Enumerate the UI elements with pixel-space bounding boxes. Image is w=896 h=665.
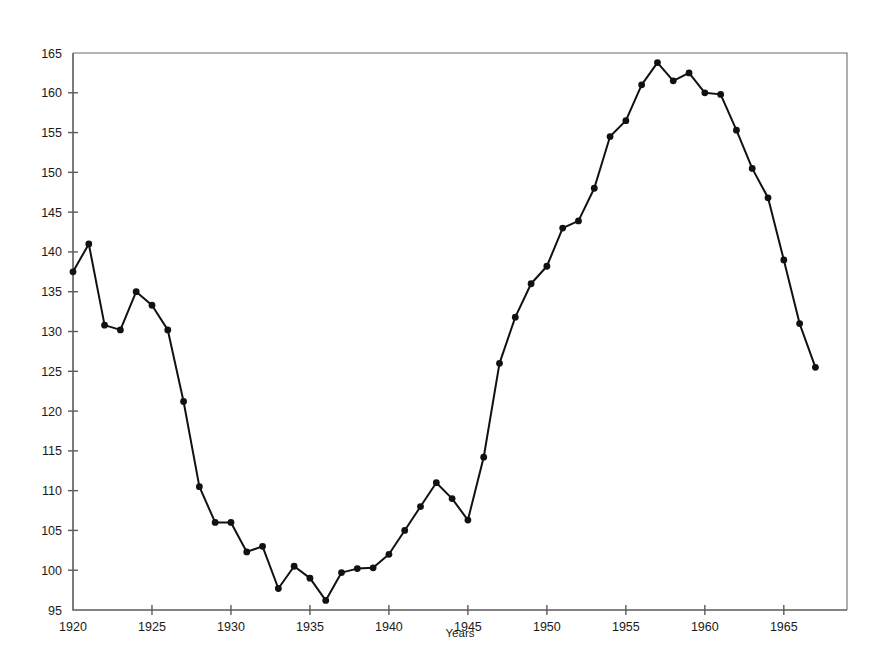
data-point-1966 xyxy=(796,320,803,327)
data-point-1939 xyxy=(370,564,377,571)
data-point-1948 xyxy=(512,314,519,321)
data-point-1951 xyxy=(559,225,566,232)
data-point-1933 xyxy=(275,585,282,592)
y-tick-label-135: 135 xyxy=(41,285,62,299)
data-point-1932 xyxy=(259,543,266,550)
y-tick-label-95: 95 xyxy=(48,604,62,618)
data-point-1920 xyxy=(70,268,77,275)
data-point-1944 xyxy=(449,495,456,502)
data-point-1962 xyxy=(733,127,740,134)
y-axis-tick-labels: 9510010511011512012513013514014515015516… xyxy=(41,47,62,618)
data-point-1935 xyxy=(307,575,314,582)
y-tick-label-120: 120 xyxy=(41,405,62,419)
data-point-1954 xyxy=(607,133,614,140)
data-point-1956 xyxy=(638,81,645,88)
y-tick-label-115: 115 xyxy=(42,444,62,458)
data-point-1967 xyxy=(812,364,819,371)
data-point-1959 xyxy=(686,69,693,76)
data-point-1947 xyxy=(496,360,503,367)
data-point-1923 xyxy=(117,327,124,334)
y-tick-label-155: 155 xyxy=(41,126,62,140)
x-tick-label-1950: 1950 xyxy=(533,620,561,634)
data-point-1952 xyxy=(575,218,582,225)
y-tick-label-160: 160 xyxy=(41,86,62,100)
data-point-1963 xyxy=(749,165,756,172)
data-point-1926 xyxy=(164,327,171,334)
data-point-1925 xyxy=(149,302,156,309)
x-tick-label-1940: 1940 xyxy=(375,620,403,634)
x-tick-label-1925: 1925 xyxy=(138,620,166,634)
data-point-1930 xyxy=(228,519,235,526)
data-point-1942 xyxy=(417,503,424,510)
y-tick-label-125: 125 xyxy=(41,365,62,379)
data-point-1934 xyxy=(291,563,298,570)
x-axis-title: Years xyxy=(446,627,475,639)
data-point-1961 xyxy=(717,91,724,98)
data-point-1940 xyxy=(386,551,393,558)
data-point-1955 xyxy=(622,117,629,124)
data-point-1922 xyxy=(101,322,108,329)
y-tick-label-150: 150 xyxy=(41,166,62,180)
data-point-1945 xyxy=(465,517,472,524)
x-tick-label-1935: 1935 xyxy=(296,620,324,634)
data-point-1936 xyxy=(322,597,329,604)
data-point-1957 xyxy=(654,59,661,66)
x-tick-label-1965: 1965 xyxy=(770,620,798,634)
x-tick-label-1955: 1955 xyxy=(612,620,640,634)
data-point-1924 xyxy=(133,288,140,295)
data-point-1960 xyxy=(701,89,708,96)
data-point-1929 xyxy=(212,519,219,526)
data-point-1921 xyxy=(85,241,92,248)
y-tick-label-110: 110 xyxy=(42,484,62,498)
y-tick-label-100: 100 xyxy=(41,564,62,578)
x-tick-label-1960: 1960 xyxy=(691,620,719,634)
y-tick-label-105: 105 xyxy=(41,524,62,538)
data-point-1931 xyxy=(243,549,250,556)
figure-background xyxy=(0,0,896,665)
data-point-1943 xyxy=(433,479,440,486)
data-point-1941 xyxy=(401,527,408,534)
data-point-1953 xyxy=(591,185,598,192)
chart-figure: 9510010511011512012513013514014515015516… xyxy=(0,0,896,665)
data-point-1927 xyxy=(180,398,187,405)
data-point-1928 xyxy=(196,483,203,490)
data-point-1946 xyxy=(480,454,487,461)
y-tick-label-145: 145 xyxy=(41,206,62,220)
y-tick-label-165: 165 xyxy=(41,47,62,61)
data-point-1938 xyxy=(354,565,361,572)
data-point-1964 xyxy=(765,194,772,201)
x-tick-label-1920: 1920 xyxy=(59,620,87,634)
line-chart-canvas: 9510010511011512012513013514014515015516… xyxy=(0,0,896,665)
y-tick-label-140: 140 xyxy=(41,245,62,259)
data-point-1950 xyxy=(543,263,550,270)
data-point-1949 xyxy=(528,280,535,287)
y-tick-label-130: 130 xyxy=(41,325,62,339)
data-point-1958 xyxy=(670,77,677,84)
data-point-1937 xyxy=(338,569,345,576)
x-tick-label-1930: 1930 xyxy=(217,620,245,634)
data-point-1965 xyxy=(780,256,787,263)
